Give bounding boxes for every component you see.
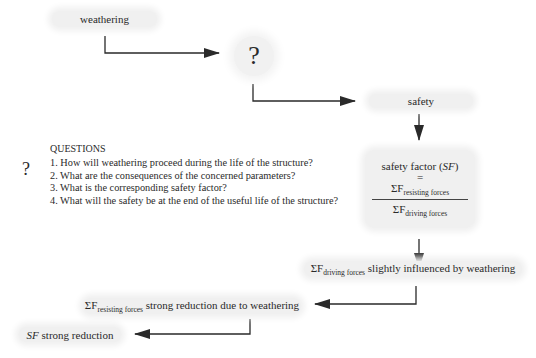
- resisting-forces-node: ΣFresisting forces strong reduction due …: [83, 298, 301, 314]
- question-item: 3. What is the corresponding safety fact…: [50, 182, 338, 195]
- fraction-denominator: ΣFdriving forces: [393, 203, 447, 218]
- sf-reduction-label: SF strong reduction: [27, 329, 114, 341]
- fraction-numerator: ΣFresisting forces: [391, 182, 449, 197]
- safety-factor-node: safety factor (SF) = ΣFresisting forces …: [365, 150, 475, 228]
- resisting-forces-label: ΣFresisting forces strong reduction due …: [85, 299, 299, 314]
- weathering-label: weathering: [80, 13, 129, 25]
- weathering-node: weathering: [52, 11, 157, 27]
- question-mark-icon: ?: [22, 159, 30, 180]
- safety-label: safety: [408, 95, 434, 107]
- question-item: 2. What are the consequences of the conc…: [50, 170, 338, 183]
- sf-reduction-node: SF strong reduction: [19, 327, 121, 342]
- fraction-line: [372, 199, 468, 200]
- question-mark-icon: ?: [248, 41, 260, 71]
- question-item: 1. How will weathering proceed during th…: [50, 157, 338, 170]
- unknown-node: ?: [234, 36, 274, 76]
- safety-node: safety: [369, 94, 473, 108]
- question-item: 4. What will the safety be at the end of…: [50, 195, 338, 208]
- questions-title: QUESTIONS: [50, 143, 106, 154]
- questions-list: 1. How will weathering proceed during th…: [50, 157, 338, 207]
- driving-forces-node: ΣFdriving forces slightly influenced by …: [304, 261, 522, 277]
- safety-factor-fraction: ΣFresisting forces ΣFdriving forces: [372, 182, 468, 218]
- driving-forces-label: ΣFdriving forces slightly influenced by …: [311, 262, 516, 277]
- equals-sign: =: [417, 172, 423, 182]
